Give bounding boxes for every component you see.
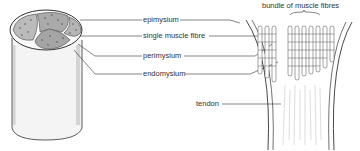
label-epimysium: epimysium (143, 16, 179, 24)
tendon-junction (246, 20, 352, 150)
label-tendon: tendon (196, 100, 219, 108)
label-bundle-of-muscle-fibres: bundle of muscle fibres (262, 2, 339, 10)
leader-lines (74, 10, 320, 104)
label-perimysium: perimysium (143, 52, 181, 60)
label-endomysium: endomysium (143, 70, 186, 78)
muscle-cylinder (10, 10, 82, 140)
label-single-muscle-fibre: single muscle fibre (143, 32, 205, 40)
